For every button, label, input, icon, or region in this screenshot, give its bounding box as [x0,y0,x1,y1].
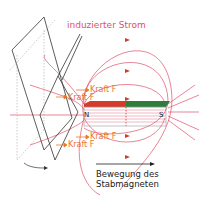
north-pole-label: N [84,112,89,119]
force-label-upper-back: Kraft F [68,94,94,102]
motion-label-line1: Bewegung des [96,169,159,179]
south-pole-label: S [159,112,163,119]
force-label-lower-back: Kraft F [68,141,94,149]
induced-current-label: induzierter Strom [67,21,146,30]
motion-label-line2: Stabmagneten [96,179,159,189]
conductor-loop [12,17,82,160]
motion-label: Bewegung des Stabmagneten [96,169,159,189]
magnet-south-half [126,101,170,107]
